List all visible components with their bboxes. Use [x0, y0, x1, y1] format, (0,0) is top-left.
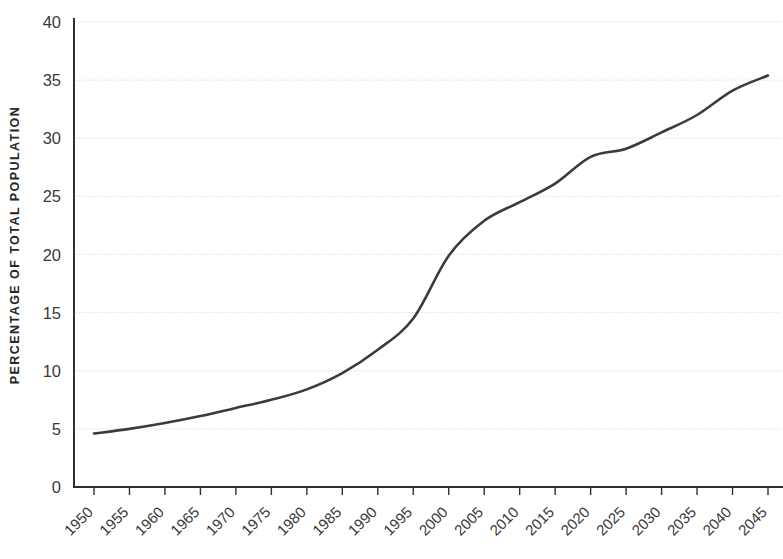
- x-axis-tick-label: 2045: [735, 503, 771, 539]
- x-axis-tick-label: 2005: [451, 503, 487, 539]
- gridlines: [76, 22, 783, 429]
- x-axis-tick-label: 2040: [699, 503, 735, 539]
- x-axis-tick-label: 1995: [380, 503, 416, 539]
- x-axis-tick-label: 1980: [273, 503, 309, 539]
- y-axis-tick-label: 30: [43, 129, 61, 147]
- x-axis-tick-label: 1950: [61, 503, 97, 539]
- y-axis-tick-label: 40: [43, 13, 61, 31]
- x-axis-tick-label: 1975: [238, 503, 274, 539]
- y-axis-tick-label: 20: [43, 246, 61, 264]
- x-axis-tick-label: 1965: [167, 503, 203, 539]
- y-axis-tick-label: 0: [52, 478, 61, 496]
- chart-figure: PERCENTAGE OF TOTAL POPULATION 051015202…: [0, 0, 783, 559]
- x-axis-tick-marks: [94, 488, 768, 495]
- x-axis-tick-label: 1985: [309, 503, 345, 539]
- x-axis-tick-label: 1970: [202, 503, 238, 539]
- y-axis-tick-label: 10: [43, 362, 61, 380]
- x-axis-tick-label: 2010: [486, 503, 522, 539]
- x-axis-tick-label: 1960: [131, 503, 167, 539]
- x-axis-tick-label: 2025: [593, 503, 629, 539]
- x-axis-tick-labels: 1950195519601965197019751980198519901995…: [61, 503, 771, 539]
- x-axis-tick-label: 2015: [522, 503, 558, 539]
- x-axis-tick-label: 1990: [344, 503, 380, 539]
- x-axis-tick-label: 1955: [96, 503, 132, 539]
- y-axis-tick-label: 25: [43, 187, 61, 205]
- y-axis-tick-label: 5: [52, 420, 61, 438]
- x-axis-tick-label: 2030: [628, 503, 664, 539]
- x-axis-tick-label: 2020: [557, 503, 593, 539]
- y-axis-tick-label: 15: [43, 304, 61, 322]
- line-chart-plot: 0510152025303540 19501955196019651970197…: [0, 0, 783, 559]
- x-axis-tick-label: 2000: [415, 503, 451, 539]
- x-axis-tick-label: 2035: [664, 503, 700, 539]
- y-axis-tick-labels: 0510152025303540: [43, 13, 61, 496]
- y-axis-tick-label: 35: [43, 71, 61, 89]
- chart-axes: [74, 18, 783, 487]
